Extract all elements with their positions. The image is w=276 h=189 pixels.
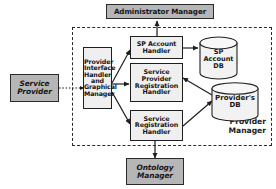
architecture-diagram: Provider Manager — [0, 0, 276, 189]
providers-db-label: Provider's DB — [211, 95, 259, 110]
sreg-label-line3: Handler — [131, 129, 182, 136]
pih-label-line6: Manager — [84, 91, 111, 97]
service-registration-handler-node[interactable]: Service Registration Handler — [130, 110, 183, 141]
sp-account-db-node[interactable]: SP Account DB — [199, 36, 238, 80]
ontology-manager-node[interactable]: Ontology Manager — [126, 158, 184, 185]
sp-account-db-label-line3: DB — [213, 62, 224, 70]
service-provider-label-line2: Provider — [11, 88, 58, 96]
spah-label-line2: Handler — [131, 48, 182, 55]
providers-db-label-line2: DB — [229, 101, 240, 109]
provider-manager-label-line2: Manager — [228, 126, 266, 135]
sp-account-db-label: SP Account DB — [199, 49, 238, 70]
service-provider-registration-handler-node[interactable]: Service Provider Registration Handler — [130, 63, 183, 102]
provider-interface-handler-node[interactable]: Provider Interface Handler and Graphical… — [83, 47, 112, 109]
administrator-manager-label: Administrator Manager — [107, 8, 213, 15]
spreg-label-line4: Handler — [131, 89, 182, 96]
ontology-manager-label-line2: Manager — [127, 172, 183, 180]
sp-account-handler-node[interactable]: SP Account Handler — [130, 36, 183, 59]
providers-db-node[interactable]: Provider's DB — [211, 82, 259, 122]
administrator-manager-node[interactable]: Administrator Manager — [106, 4, 214, 19]
service-provider-node[interactable]: Service Provider — [10, 74, 59, 102]
